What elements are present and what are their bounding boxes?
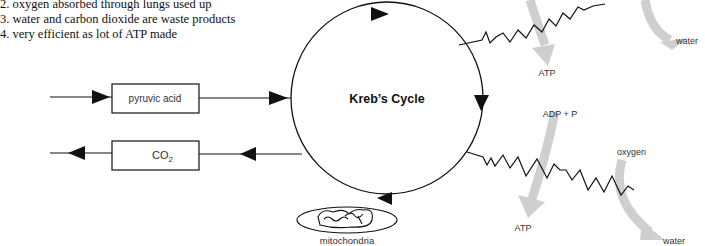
pyruvic-acid-label: pyruvic acid [129, 93, 182, 104]
lower-water-arrow-icon [619, 160, 650, 232]
adp-p-label: ADP + P [543, 109, 578, 119]
lower-water-label: water [662, 236, 685, 246]
diagram-canvas: pyruvic acid CO2 Kreb’s Cycle mitochondr… [0, 0, 705, 246]
mitochondria-label: mitochondria [320, 235, 375, 246]
oxygen-label: oxygen [617, 147, 646, 157]
pyruvic-to-cycle-arrow-icon [269, 91, 288, 105]
cycle-arrow-top-icon [371, 7, 389, 21]
upper-water-label: water [675, 36, 698, 46]
lower-zigzag-chain [467, 152, 634, 195]
lower-atp-arrow-icon [530, 112, 555, 205]
cycle-title: Kreb’s Cycle [349, 92, 424, 106]
krebs-cycle-diagram: 2. oxygen absorbed through lungs used up… [0, 0, 705, 246]
cycle-to-co2-arrow-icon [240, 147, 256, 161]
co2-output-arrow-icon [68, 146, 85, 160]
upper-atp-label: ATP [539, 68, 556, 78]
cycle-arrow-right-icon [474, 95, 489, 111]
upper-atp-arrow-icon [530, 0, 545, 45]
mitochondria-icon [297, 207, 397, 233]
input-arrow-icon [92, 90, 110, 104]
upper-water-arrow-icon [645, 0, 670, 40]
lower-atp-label: ATP [515, 223, 532, 233]
